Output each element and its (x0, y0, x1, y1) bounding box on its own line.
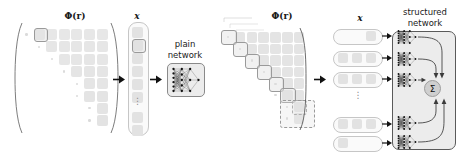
right-vector-cell (338, 53, 348, 63)
left-matrix-edge-dot (76, 95, 78, 97)
left-matrix-cell (71, 41, 82, 52)
left-matrix-cell (71, 29, 82, 40)
left-vector-label: x (122, 11, 152, 21)
right-matrix-cell (282, 32, 293, 43)
left-matrix-cell (97, 41, 108, 52)
right-matrix-cell (270, 55, 281, 66)
left-matrix-edge-dot (76, 83, 78, 85)
left-vector-entry (132, 66, 143, 77)
left-matrix-bracket-open (13, 22, 23, 134)
left-matrix-cell (59, 41, 70, 52)
left-matrix-edge-dot (25, 33, 27, 35)
right-vector-cell (352, 119, 362, 129)
left-vector-ellipsis: ⋮ (130, 100, 145, 103)
right-vector-cell (338, 119, 348, 129)
right-vector-cell (352, 74, 362, 84)
right-vector-cell (366, 53, 376, 63)
left-matrix-cell (84, 78, 95, 89)
left-matrix-edge-dot (88, 119, 90, 121)
sum-node[interactable]: Σ (424, 80, 441, 97)
left-matrix-cell (97, 103, 108, 114)
right-vector-cell (366, 74, 376, 84)
right-vector-cell (352, 53, 362, 63)
left-vector-highlighted-entry[interactable] (132, 39, 146, 53)
left-matrix-cell (84, 41, 95, 52)
left-vector-entry (132, 53, 143, 64)
figure-canvas: Φ(r) x ⋮ plain network (0, 0, 462, 159)
left-vector-entry (132, 112, 143, 123)
structured-network-wiring (392, 31, 454, 152)
left-matrix-cell (97, 54, 108, 65)
right-vector-cell (338, 138, 348, 148)
right-matrix-cell (282, 55, 293, 66)
arrow-left-matrix-to-vector (113, 74, 126, 85)
plain-network-glyph (171, 67, 201, 93)
right-matrix-cell (282, 44, 293, 55)
left-matrix-cell (71, 54, 82, 65)
plain-network-box[interactable] (167, 63, 205, 97)
left-matrix-cell (46, 29, 57, 40)
left-matrix-edge-dot (51, 58, 53, 60)
structured-network-label-line1: structured (392, 7, 458, 17)
structured-network-label-line2: network (392, 18, 458, 28)
arrow-left-vector-to-network (150, 74, 163, 85)
right-matrix-cell (258, 32, 269, 43)
right-vector-label: x (345, 13, 375, 23)
right-vector-cell (338, 74, 348, 84)
arrow-right-matrix-to-vectors (314, 74, 327, 85)
left-matrix-cell (84, 66, 95, 77)
right-matrix-capture-box[interactable] (280, 100, 315, 128)
left-vector-entry (132, 79, 143, 90)
left-matrix-cell (59, 54, 70, 65)
right-matrix-cell (247, 44, 258, 55)
left-matrix-cell (84, 29, 95, 40)
left-matrix-cell (97, 115, 108, 126)
left-matrix-edge-dot (38, 46, 40, 48)
right-matrix-cell (247, 32, 258, 43)
left-matrix-cell (97, 66, 108, 77)
left-matrix-cell (46, 41, 57, 52)
right-vector-cell (366, 31, 376, 41)
left-matrix-cell (59, 29, 70, 40)
structured-network-ellipsis: ⋮ (399, 80, 413, 83)
plain-network-label-line1: plain (160, 39, 210, 49)
left-matrix-highlighted-cell[interactable] (34, 28, 48, 42)
left-matrix-cell (71, 66, 82, 77)
right-matrix-cell (282, 67, 293, 78)
right-matrix-cell (270, 44, 281, 55)
left-matrix-label: Φ(r) (55, 11, 95, 21)
left-matrix-cell (97, 91, 108, 102)
right-vector-ellipsis: ⋮ (351, 94, 365, 97)
right-matrix-cell (258, 44, 269, 55)
left-matrix-edge-dot (88, 107, 90, 109)
left-vector-entry (132, 125, 143, 136)
left-matrix-edge-dot (63, 70, 65, 72)
plain-network-label-line2: network (160, 50, 210, 60)
left-matrix-cell (97, 78, 108, 89)
left-matrix-cell (97, 29, 108, 40)
left-vector-entry (132, 27, 143, 38)
left-matrix-cell (84, 91, 95, 102)
right-vector-cell (366, 119, 376, 129)
left-matrix-cell (84, 54, 95, 65)
right-matrix-cell (270, 32, 281, 43)
right-matrix-bracket-close (299, 27, 308, 131)
